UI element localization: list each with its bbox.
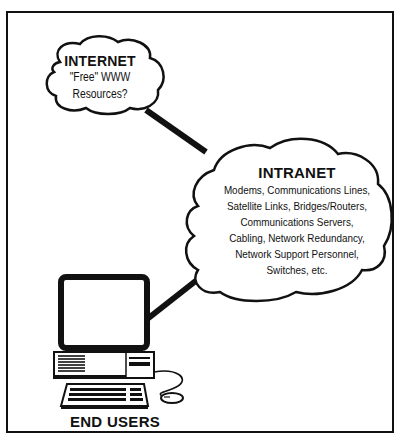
- computer-icon: [54, 277, 183, 409]
- intranet-description-line: Switches, etc.: [217, 262, 377, 278]
- edge-internet-intranet: [146, 110, 206, 152]
- edge-intranet-end-users: [146, 276, 202, 320]
- internet-description-line: "Free" WWW: [55, 69, 144, 86]
- intranet-description-line: Cabling, Network Redundancy,: [217, 230, 377, 246]
- intranet-description-line: Network Support Personnel,: [217, 246, 377, 262]
- end-users-label: END USERS: [60, 413, 170, 430]
- mouse-cord: [154, 371, 182, 396]
- intranet-description-line: Modems, Communications Lines,: [217, 182, 377, 198]
- internet-description-line: Resources?: [55, 86, 144, 103]
- intranet-description-line: Satellite Links, Bridges/Routers,: [217, 198, 377, 214]
- intranet-title: INTRANET: [204, 164, 390, 181]
- drive-slot: [129, 362, 150, 366]
- internet-title: INTERNET: [48, 53, 152, 69]
- intranet-cloud: INTRANET Modems, Communications Lines, S…: [204, 164, 390, 278]
- internet-cloud: INTERNET "Free" WWW Resources?: [48, 53, 152, 103]
- monitor-icon: [61, 277, 147, 348]
- diagram-canvas: INTERNET "Free" WWW Resources? INTRANET …: [0, 0, 403, 442]
- keyboard-keys: [68, 388, 143, 401]
- drive-slot: [129, 357, 150, 359]
- mouse-icon: [161, 393, 183, 403]
- intranet-description-line: Communications Servers,: [217, 214, 377, 230]
